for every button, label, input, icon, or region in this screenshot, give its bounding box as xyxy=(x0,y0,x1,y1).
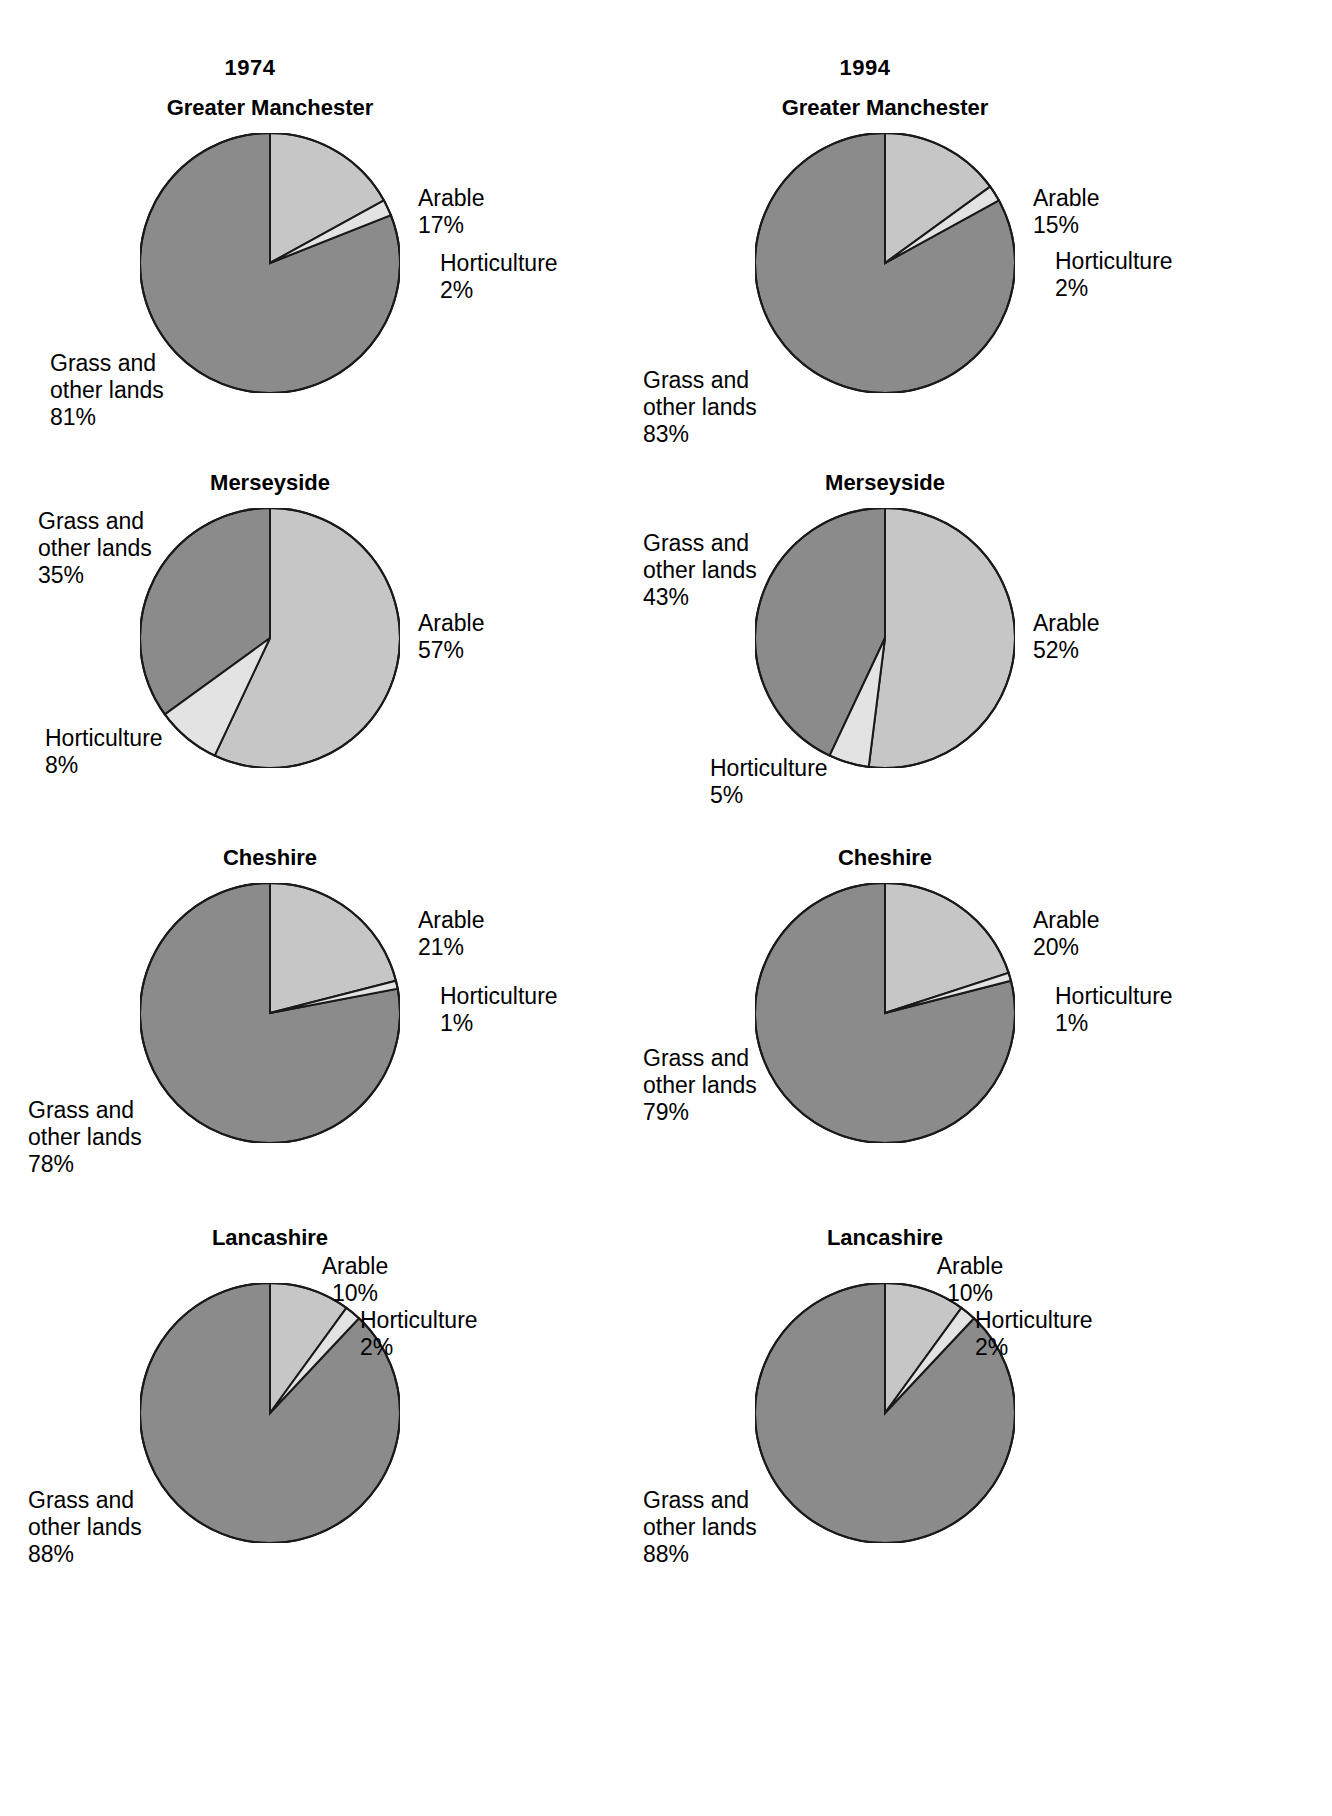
panel-title: Cheshire xyxy=(60,845,480,871)
label-horticulture: Horticulture 2% xyxy=(1055,248,1173,302)
pie-slices xyxy=(755,883,1015,1143)
label-arable: Arable 17% xyxy=(418,185,484,239)
slice-arable[interactable] xyxy=(869,508,1015,768)
panel-greater-manchester-1974: Greater Manchester Arable 17% Horticultu… xyxy=(0,95,666,495)
label-arable: Arable 52% xyxy=(1033,610,1099,664)
label-grass: Grass and other lands 35% xyxy=(38,508,152,589)
panel-title: Merseyside xyxy=(675,470,1095,496)
column-header-1974: 1974 xyxy=(180,55,320,81)
pie-slices xyxy=(755,508,1015,768)
pie-svg xyxy=(755,133,1015,393)
label-arable: Arable 20% xyxy=(1033,907,1099,961)
pie-svg xyxy=(140,508,400,768)
label-arable: Arable 10% xyxy=(295,1253,415,1307)
pie-slices xyxy=(755,133,1015,393)
label-arable: Arable 10% xyxy=(910,1253,1030,1307)
label-horticulture: Horticulture 2% xyxy=(360,1307,478,1361)
panel-greater-manchester-1994: Greater Manchester Arable 15% Horticultu… xyxy=(615,95,1281,495)
label-grass: Grass and other lands 88% xyxy=(643,1487,757,1568)
pie-slices xyxy=(140,883,400,1143)
label-grass: Grass and other lands 78% xyxy=(28,1097,142,1178)
pie-slices xyxy=(140,508,400,768)
label-arable: Arable 15% xyxy=(1033,185,1099,239)
panel-cheshire-1974: Cheshire Arable 21% Horticulture 1% Gras… xyxy=(0,845,666,1245)
label-grass: Grass and other lands 43% xyxy=(643,530,757,611)
label-horticulture: Horticulture 1% xyxy=(440,983,558,1037)
panel-title: Greater Manchester xyxy=(675,95,1095,121)
pie-chart xyxy=(140,508,400,768)
label-grass: Grass and other lands 83% xyxy=(643,367,757,448)
pie-chart xyxy=(755,883,1015,1143)
panel-title: Lancashire xyxy=(60,1225,480,1251)
panel-merseyside-1994: Merseyside Arable 52% Horticulture 5% Gr… xyxy=(615,470,1281,870)
label-arable: Arable 57% xyxy=(418,610,484,664)
panel-merseyside-1974: Merseyside Arable 57% Horticulture 8% Gr… xyxy=(0,470,666,870)
pie-svg xyxy=(140,133,400,393)
pie-chart xyxy=(140,133,400,393)
label-horticulture: Horticulture 1% xyxy=(1055,983,1173,1037)
pie-chart xyxy=(140,883,400,1143)
label-horticulture: Horticulture 2% xyxy=(440,250,558,304)
pie-slices xyxy=(140,133,400,393)
pie-svg xyxy=(755,883,1015,1143)
label-horticulture: Horticulture 5% xyxy=(710,755,828,809)
column-header-1994: 1994 xyxy=(795,55,935,81)
label-arable: Arable 21% xyxy=(418,907,484,961)
panel-title: Lancashire xyxy=(675,1225,1095,1251)
label-horticulture: Horticulture 8% xyxy=(45,725,163,779)
label-grass: Grass and other lands 79% xyxy=(643,1045,757,1126)
panel-title: Greater Manchester xyxy=(60,95,480,121)
panel-title: Merseyside xyxy=(60,470,480,496)
label-horticulture: Horticulture 2% xyxy=(975,1307,1093,1361)
pie-svg xyxy=(755,508,1015,768)
panel-lancashire-1994: Lancashire Arable 10% Horticulture 2% Gr… xyxy=(615,1225,1281,1625)
panel-lancashire-1974: Lancashire Arable 10% Horticulture 2% Gr… xyxy=(0,1225,666,1625)
pie-chart xyxy=(755,133,1015,393)
pie-svg xyxy=(140,883,400,1143)
label-grass: Grass and other lands 88% xyxy=(28,1487,142,1568)
pie-chart xyxy=(755,508,1015,768)
label-grass: Grass and other lands 81% xyxy=(50,350,164,431)
panel-title: Cheshire xyxy=(675,845,1095,871)
panel-cheshire-1994: Cheshire Arable 20% Horticulture 1% Gras… xyxy=(615,845,1281,1245)
